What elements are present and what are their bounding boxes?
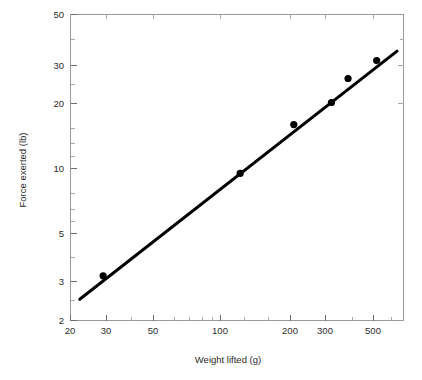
x-axis-major-ticks <box>71 315 374 321</box>
x-tick-label: 30 <box>101 325 112 336</box>
y-tick-label: 10 <box>53 163 64 174</box>
data-point <box>328 99 335 106</box>
x-axis-minor-ticks <box>132 317 392 321</box>
y-tick-label: 20 <box>53 98 64 109</box>
y-tick-label: 2 <box>59 315 64 326</box>
x-axis-tick-labels: 20 30 50 100 200 300 500 <box>65 325 381 336</box>
top-frame-ticks <box>107 15 374 19</box>
y-tick-label: 30 <box>53 60 64 71</box>
data-point <box>237 170 244 177</box>
data-point-group <box>100 57 381 279</box>
x-tick-label: 500 <box>365 325 381 336</box>
x-tick-label: 20 <box>65 325 76 336</box>
y-axis-major-ticks <box>71 15 77 321</box>
y-axis-minor-ticks <box>71 40 75 301</box>
y-axis-title: Force exerted (lb) <box>17 133 28 208</box>
x-tick-label: 200 <box>282 325 298 336</box>
right-frame-ticks <box>398 40 404 104</box>
y-tick-label: 50 <box>53 9 64 20</box>
data-point <box>344 75 351 82</box>
x-axis-title: Weight lifted (g) <box>195 354 261 365</box>
y-tick-label: 5 <box>59 228 64 239</box>
data-point <box>100 272 107 279</box>
log-log-scatter-plot: 50 30 20 10 5 3 2 20 30 50 100 200 300 5… <box>0 0 422 380</box>
y-axis-tick-labels: 50 30 20 10 5 3 2 <box>53 9 64 326</box>
chart-figure: 50 30 20 10 5 3 2 20 30 50 100 200 300 5… <box>0 0 422 380</box>
x-tick-label: 50 <box>148 325 159 336</box>
x-tick-label: 300 <box>317 325 333 336</box>
data-point <box>373 57 380 64</box>
y-tick-label: 3 <box>59 276 64 287</box>
x-tick-label: 100 <box>212 325 228 336</box>
data-point <box>290 121 297 128</box>
plot-frame <box>71 15 404 321</box>
